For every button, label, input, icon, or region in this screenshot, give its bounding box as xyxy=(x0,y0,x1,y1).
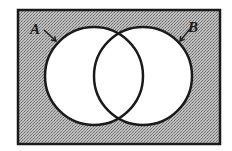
set-b-label: B xyxy=(187,19,198,35)
set-a-label: A xyxy=(29,21,40,37)
venn-svg: A B xyxy=(0,0,232,151)
venn-diagram: A B xyxy=(0,0,232,151)
